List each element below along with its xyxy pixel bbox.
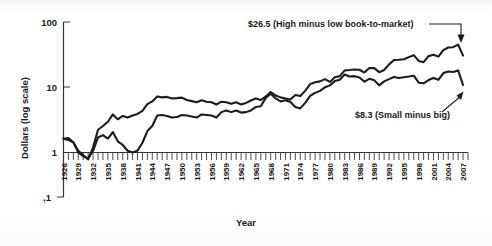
- x-tick-label-1971: 1971: [282, 162, 291, 180]
- x-tick-label-1992: 1992: [385, 162, 394, 180]
- x-tick-label-1926: 1926: [60, 162, 69, 180]
- x-tick-label-1998: 1998: [415, 162, 424, 180]
- annotation-leaders: [429, 24, 465, 112]
- x-tick-label-1980: 1980: [326, 162, 335, 180]
- x-tick-label-2004: 2004: [444, 162, 453, 180]
- series-group: [64, 45, 464, 160]
- y-tick-label-1: 1: [52, 147, 58, 158]
- y-tick-label-10: 10: [46, 82, 57, 93]
- x-tick-label-1995: 1995: [400, 162, 409, 180]
- x-tick-label-1977: 1977: [311, 162, 320, 180]
- x-tick-label-1956: 1956: [208, 162, 217, 180]
- annotation-high-minus-low: $26.5 (High minus low book-to-market): [248, 19, 414, 29]
- x-tick-label-1941: 1941: [134, 162, 143, 180]
- x-tick-label-1950: 1950: [178, 162, 187, 180]
- annotation-small-minus-big: $8.3 (Small minus big): [355, 110, 450, 120]
- x-tick-label-2001: 2001: [430, 162, 439, 180]
- x-tick-labels: 1926192919321935193819411944194719501953…: [60, 162, 469, 180]
- arrow-head-high-low: [458, 35, 465, 44]
- leader-line-high-low: [429, 24, 461, 36]
- x-tick-marks: [64, 153, 469, 161]
- y-tick-label-100: 100: [41, 17, 57, 28]
- x-tick-label-1983: 1983: [341, 162, 350, 180]
- y-tick-label-point1: ,1: [43, 192, 52, 203]
- x-tick-label-1932: 1932: [89, 162, 98, 180]
- x-tick-label-1947: 1947: [163, 162, 172, 180]
- x-tick-label-1944: 1944: [148, 162, 157, 180]
- x-axis-title: Year: [236, 217, 256, 228]
- x-tick-label-1968: 1968: [267, 162, 276, 180]
- x-tick-label-1986: 1986: [356, 162, 365, 180]
- line-chart: 100 10 1 ,1 Dollars (log scale) 19261929…: [0, 0, 492, 246]
- x-tick-label-1965: 1965: [252, 162, 261, 180]
- x-tick-label-1929: 1929: [74, 162, 83, 180]
- x-tick-label-1938: 1938: [119, 162, 128, 180]
- x-tick-label-1959: 1959: [222, 162, 231, 180]
- x-tick-label-1953: 1953: [193, 162, 202, 180]
- figure-container: 100 10 1 ,1 Dollars (log scale) 19261929…: [0, 0, 492, 246]
- x-tick-label-1974: 1974: [296, 162, 305, 180]
- x-tick-label-2007: 2007: [459, 162, 468, 180]
- x-tick-label-1989: 1989: [370, 162, 379, 180]
- x-tick-label-1962: 1962: [237, 162, 246, 180]
- x-tick-label-1935: 1935: [104, 162, 113, 180]
- y-axis-title: Dollars (log scale): [19, 77, 30, 159]
